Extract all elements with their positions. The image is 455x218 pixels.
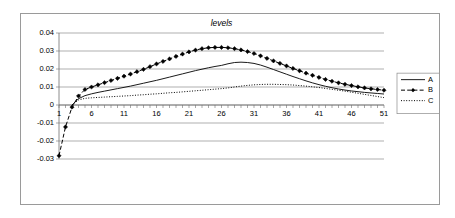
series-marker-B (200, 47, 204, 51)
series-marker-B (63, 125, 67, 129)
series-marker-B (193, 48, 197, 52)
series-marker-B (291, 66, 295, 70)
series-marker-B (109, 78, 113, 82)
series-marker-B (96, 83, 100, 87)
x-tick-label: 51 (380, 109, 388, 118)
y-tick-label: -0.03 (37, 154, 54, 163)
x-tick-label: 46 (347, 109, 355, 118)
x-tick-label: 26 (217, 109, 225, 118)
series-marker-B (336, 81, 340, 85)
series-marker-B (356, 85, 360, 89)
series-marker-B (310, 73, 314, 77)
y-tick-label: 0.04 (39, 28, 54, 37)
x-tick-label: 11 (120, 109, 128, 118)
series-marker-B (167, 57, 171, 61)
series-marker-B (57, 154, 61, 158)
series-line-B (59, 47, 384, 155)
x-tick-label: 1 (57, 109, 61, 118)
series-marker-B (180, 52, 184, 56)
series-marker-B (213, 45, 217, 49)
legend-label-A: A (428, 75, 433, 84)
series-marker-B (161, 59, 165, 63)
x-tick-label: 41 (315, 109, 323, 118)
series-marker-B (265, 56, 269, 60)
series-marker-B (284, 64, 288, 68)
series-marker-B (252, 51, 256, 55)
y-tick-label: 0 (50, 100, 54, 109)
y-tick-label: 0.01 (39, 82, 54, 91)
series-marker-B (362, 86, 366, 90)
series-marker-B (141, 67, 145, 71)
y-tick-label: 0.02 (39, 64, 54, 73)
chart-legend[interactable]: ABC (397, 73, 439, 114)
series-marker-B (226, 46, 230, 50)
series-marker-B (382, 88, 386, 92)
series-marker-B (278, 61, 282, 65)
series-marker-B (135, 70, 139, 74)
x-tick-label: 31 (250, 109, 258, 118)
levels-line-chart: levels0.040.030.020.010-0.01-0.02-0.0316… (21, 14, 439, 204)
y-tick-label: -0.02 (37, 136, 54, 145)
series-marker-B (375, 87, 379, 91)
series-marker-B (206, 46, 210, 50)
series-line-C (72, 84, 384, 105)
series-marker-B (70, 105, 74, 109)
series-marker-B (89, 85, 93, 89)
legend-label-C: C (428, 96, 434, 105)
series-marker-B (271, 59, 275, 63)
series-marker-B (174, 54, 178, 58)
series-marker-B (102, 81, 106, 85)
series-marker-B (258, 54, 262, 58)
chart-title: levels (211, 18, 233, 28)
x-tick-label: 21 (185, 109, 193, 118)
series-marker-B (245, 49, 249, 53)
x-tick-label: 36 (282, 109, 290, 118)
x-tick-label: 6 (89, 109, 93, 118)
y-tick-label: -0.01 (37, 118, 54, 127)
x-tick-label: 16 (152, 109, 160, 118)
series-marker-B (232, 47, 236, 51)
legend-label-B: B (428, 85, 433, 94)
series-marker-B (219, 45, 223, 49)
series-marker-B (330, 79, 334, 83)
series-marker-B (115, 76, 119, 80)
y-tick-label: 0.03 (39, 46, 54, 55)
series-marker-B (128, 72, 132, 76)
series-marker-B (122, 74, 126, 78)
series-marker-B (239, 48, 243, 52)
chart-frame: levels0.040.030.020.010-0.01-0.02-0.0316… (20, 13, 440, 205)
series-marker-B (304, 71, 308, 75)
series-marker-B (187, 50, 191, 54)
series-marker-B (343, 82, 347, 86)
series-marker-B (317, 75, 321, 79)
series-marker-B (323, 77, 327, 81)
series-marker-B (148, 65, 152, 69)
series-marker-B (154, 62, 158, 66)
